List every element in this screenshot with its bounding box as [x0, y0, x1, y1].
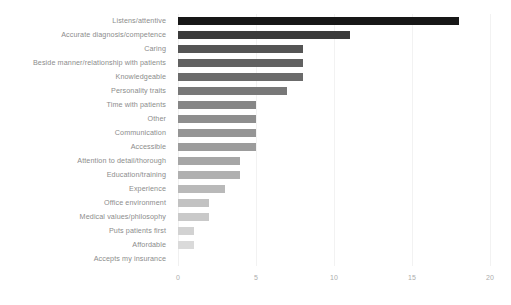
bar-row [178, 42, 490, 56]
x-axis-tick-labels: 05101520 [178, 274, 490, 288]
y-axis-category-label: Accepts my insurance [0, 252, 172, 266]
y-axis-category-label: Accessible [0, 140, 172, 154]
x-tick-label: 20 [486, 274, 494, 281]
bar [178, 73, 303, 81]
bar-chart: Listens/attentiveAccurate diagnosis/comp… [0, 0, 511, 305]
bar-row [178, 84, 490, 98]
gridline-20 [490, 14, 491, 266]
bar-row [178, 196, 490, 210]
bar [178, 185, 225, 193]
y-axis-category-label: Attention to detail/thorough [0, 154, 172, 168]
bar-row [178, 154, 490, 168]
bar-row [178, 126, 490, 140]
bar [178, 17, 459, 25]
bar-row [178, 112, 490, 126]
bar [178, 129, 256, 137]
bar [178, 143, 256, 151]
bar-row [178, 238, 490, 252]
y-axis-category-label: Accurate diagnosis/competence [0, 28, 172, 42]
bar [178, 171, 240, 179]
y-axis-category-label: Puts patients first [0, 224, 172, 238]
x-tick-label: 0 [176, 274, 180, 281]
bar [178, 87, 287, 95]
bar [178, 241, 194, 249]
y-axis-category-label: Beside manner/relationship with patients [0, 56, 172, 70]
y-axis-category-label: Communication [0, 126, 172, 140]
bar-row [178, 98, 490, 112]
bar-row [178, 210, 490, 224]
y-axis-category-label: Affordable [0, 238, 172, 252]
y-axis-category-label: Experience [0, 182, 172, 196]
y-axis-category-label: Knowledgeable [0, 70, 172, 84]
y-axis-category-label: Listens/attentive [0, 14, 172, 28]
bar-row [178, 168, 490, 182]
bar-row [178, 182, 490, 196]
bar [178, 45, 303, 53]
bar [178, 101, 256, 109]
bar [178, 59, 303, 67]
bar [178, 199, 209, 207]
bar-row [178, 70, 490, 84]
y-axis-category-label: Caring [0, 42, 172, 56]
bar-row [178, 14, 490, 28]
bar-row [178, 28, 490, 42]
bar-row [178, 140, 490, 154]
plot-area [178, 14, 490, 266]
y-axis-category-label: Other [0, 112, 172, 126]
bar [178, 115, 256, 123]
y-axis-category-label: Education/training [0, 168, 172, 182]
y-axis-category-label: Medical values/philosophy [0, 210, 172, 224]
x-tick-label: 10 [330, 274, 338, 281]
y-axis-category-labels: Listens/attentiveAccurate diagnosis/comp… [0, 14, 172, 266]
bar [178, 213, 209, 221]
y-axis-category-label: Time with patients [0, 98, 172, 112]
bar [178, 157, 240, 165]
bar-row [178, 224, 490, 238]
bar [178, 227, 194, 235]
x-tick-label: 15 [408, 274, 416, 281]
bar-row [178, 252, 490, 266]
x-tick-label: 5 [254, 274, 258, 281]
y-axis-category-label: Personality traits [0, 84, 172, 98]
bar [178, 31, 350, 39]
bar-rows [178, 14, 490, 266]
bar-row [178, 56, 490, 70]
y-axis-category-label: Office environment [0, 196, 172, 210]
